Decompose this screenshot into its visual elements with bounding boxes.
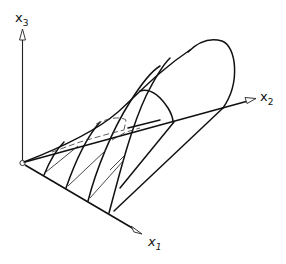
x2-arrowhead-icon xyxy=(245,98,256,104)
main-cross-section-arc xyxy=(188,40,235,108)
x1-arrowhead-icon xyxy=(131,226,142,234)
surface-diagram: x3 x2 x1 xyxy=(0,0,286,264)
secondary-cross-section-arc xyxy=(140,90,173,122)
x3-arrowhead-icon xyxy=(20,29,26,40)
x1-label: x1 xyxy=(147,234,161,252)
x2-label: x2 xyxy=(260,89,273,107)
ridge-line-4 xyxy=(109,58,170,213)
x3-label: x3 xyxy=(15,10,28,28)
hidden-section-2 xyxy=(96,118,126,130)
x1-axis: x1 xyxy=(25,165,161,252)
generator-line-1 xyxy=(120,122,174,188)
x3-axis: x3 xyxy=(15,10,28,161)
x2-axis: x2 xyxy=(25,89,273,162)
surface xyxy=(24,40,235,213)
